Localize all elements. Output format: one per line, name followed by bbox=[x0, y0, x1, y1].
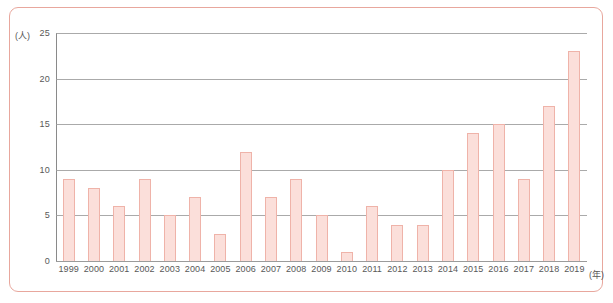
y-axis-tick-labels: 0510152025 bbox=[0, 33, 50, 261]
y-tick-label-25: 25 bbox=[40, 28, 50, 38]
y-tick-label-20: 20 bbox=[40, 74, 50, 84]
bar-slot bbox=[391, 33, 403, 261]
x-axis-tick-labels: 1999200020012002200320042005200620072008… bbox=[56, 264, 587, 280]
bar-slot bbox=[543, 33, 555, 261]
bar-2001 bbox=[113, 206, 125, 261]
bar-2002 bbox=[139, 179, 151, 261]
x-axis-unit-label: (年) bbox=[589, 268, 604, 281]
bar-2007 bbox=[265, 197, 277, 261]
bar-slot bbox=[493, 33, 505, 261]
bar-slot bbox=[189, 33, 201, 261]
bar-slot bbox=[417, 33, 429, 261]
bar-slot bbox=[442, 33, 454, 261]
bar-slot bbox=[88, 33, 100, 261]
bar-2016 bbox=[493, 124, 505, 261]
plot-area bbox=[56, 33, 587, 261]
x-tick-label-2001: 2001 bbox=[109, 264, 129, 274]
bar-slot bbox=[139, 33, 151, 261]
bar-slot bbox=[240, 33, 252, 261]
chart-figure: (人) 0510152025 1999200020012002200320042… bbox=[0, 0, 613, 303]
bar-slot bbox=[467, 33, 479, 261]
bar-slot bbox=[568, 33, 580, 261]
x-tick-label-2002: 2002 bbox=[134, 264, 154, 274]
x-tick-label-2006: 2006 bbox=[235, 264, 255, 274]
x-tick-label-2009: 2009 bbox=[311, 264, 331, 274]
x-tick-label-2008: 2008 bbox=[286, 264, 306, 274]
x-tick-label-2017: 2017 bbox=[514, 264, 534, 274]
bar-2014 bbox=[442, 170, 454, 261]
x-tick-label-2015: 2015 bbox=[463, 264, 483, 274]
x-tick-label-2007: 2007 bbox=[261, 264, 281, 274]
x-tick-label-2014: 2014 bbox=[438, 264, 458, 274]
x-tick-label-2004: 2004 bbox=[185, 264, 205, 274]
bar-2006 bbox=[240, 152, 252, 261]
bar-2011 bbox=[366, 206, 378, 261]
bar-slot bbox=[113, 33, 125, 261]
bar-2009 bbox=[316, 215, 328, 261]
x-tick-label-2018: 2018 bbox=[539, 264, 559, 274]
y-tick-label-0: 0 bbox=[45, 256, 50, 266]
bar-slot bbox=[265, 33, 277, 261]
bar-2017 bbox=[518, 179, 530, 261]
x-tick-label-2003: 2003 bbox=[160, 264, 180, 274]
x-tick-label-2012: 2012 bbox=[387, 264, 407, 274]
x-tick-label-2010: 2010 bbox=[337, 264, 357, 274]
y-tick-label-15: 15 bbox=[40, 119, 50, 129]
x-tick-label-2000: 2000 bbox=[84, 264, 104, 274]
y-tick-label-5: 5 bbox=[45, 210, 50, 220]
bar-2018 bbox=[543, 106, 555, 261]
bar-slot bbox=[518, 33, 530, 261]
bar-slot bbox=[290, 33, 302, 261]
x-tick-label-1999: 1999 bbox=[58, 264, 78, 274]
x-tick-label-2011: 2011 bbox=[362, 264, 382, 274]
x-tick-label-2013: 2013 bbox=[412, 264, 432, 274]
bar-slot bbox=[316, 33, 328, 261]
bar-2005 bbox=[214, 234, 226, 261]
gridline-0 bbox=[56, 261, 587, 262]
bar-slot bbox=[366, 33, 378, 261]
bar-2012 bbox=[391, 225, 403, 261]
bar-2010 bbox=[341, 252, 353, 261]
y-tick-label-10: 10 bbox=[40, 165, 50, 175]
x-tick-label-2005: 2005 bbox=[210, 264, 230, 274]
bar-2003 bbox=[164, 215, 176, 261]
bar-slot bbox=[341, 33, 353, 261]
bar-2013 bbox=[417, 225, 429, 261]
bar-slot bbox=[63, 33, 75, 261]
bar-2019 bbox=[568, 51, 580, 261]
bar-2008 bbox=[290, 179, 302, 261]
bar-slot bbox=[214, 33, 226, 261]
bar-2004 bbox=[189, 197, 201, 261]
x-tick-label-2016: 2016 bbox=[488, 264, 508, 274]
bar-slot bbox=[164, 33, 176, 261]
bar-1999 bbox=[63, 179, 75, 261]
bar-2015 bbox=[467, 133, 479, 261]
x-tick-label-2019: 2019 bbox=[564, 264, 584, 274]
bar-2000 bbox=[88, 188, 100, 261]
bar-series bbox=[56, 33, 587, 261]
